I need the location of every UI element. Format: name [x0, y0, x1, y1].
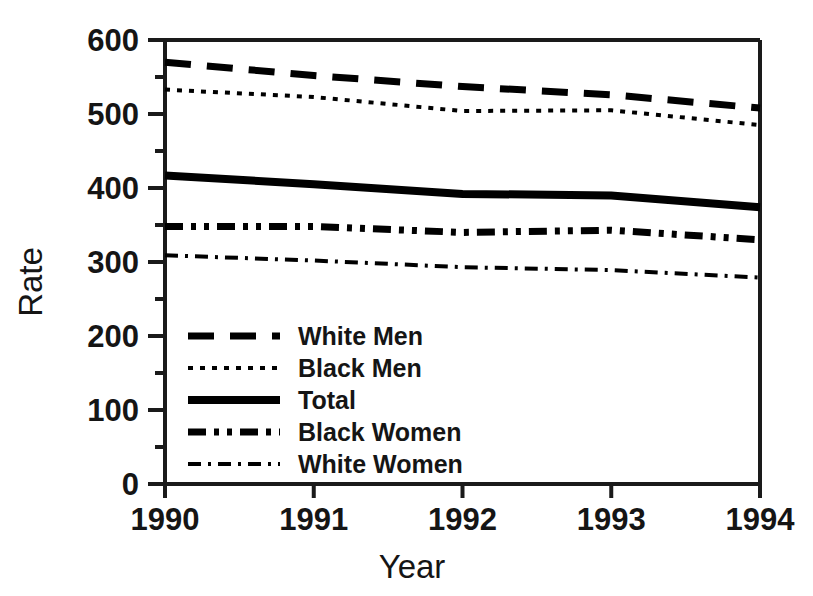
series-line-white-women	[165, 255, 760, 277]
y-tick-label: 400	[87, 171, 139, 206]
y-tick-label: 200	[87, 319, 139, 354]
y-axis-tick-labels: 0100200300400500600	[87, 23, 139, 502]
legend-label-total: Total	[298, 386, 356, 414]
x-axis-ticks	[165, 484, 760, 498]
chart-legend: White MenBlack MenTotalBlack WomenWhite …	[188, 322, 463, 478]
x-tick-label: 1990	[131, 502, 200, 537]
legend-label-black-men: Black Men	[298, 354, 422, 382]
plot-frame	[165, 40, 760, 484]
series-line-black-men	[165, 90, 760, 126]
legend-label-white-women: White Women	[298, 450, 463, 478]
x-tick-label: 1993	[577, 502, 646, 537]
y-tick-label: 0	[122, 467, 139, 502]
legend-label-white-men: White Men	[298, 322, 423, 350]
y-tick-label: 100	[87, 393, 139, 428]
legend-label-black-women: Black Women	[298, 418, 461, 446]
y-axis-title: Rate	[12, 247, 49, 317]
chart-container: 0100200300400500600 19901991199219931994…	[0, 0, 813, 596]
x-tick-label: 1992	[428, 502, 497, 537]
x-axis-tick-labels: 19901991199219931994	[131, 502, 796, 537]
y-tick-label: 300	[87, 245, 139, 280]
series-line-total	[165, 175, 760, 207]
x-tick-label: 1991	[279, 502, 348, 537]
x-axis-title: Year	[379, 548, 446, 585]
y-axis-ticks	[148, 40, 165, 484]
y-tick-label: 500	[87, 97, 139, 132]
series-line-white-men	[165, 62, 760, 108]
y-tick-label: 600	[87, 23, 139, 58]
series-line-black-women	[165, 227, 760, 240]
x-tick-label: 1994	[726, 502, 796, 537]
data-series-group	[165, 62, 760, 277]
line-chart: 0100200300400500600 19901991199219931994…	[0, 0, 813, 596]
